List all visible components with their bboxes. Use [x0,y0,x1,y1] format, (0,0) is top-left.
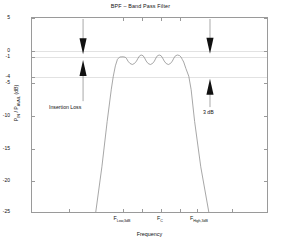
y-axis-label-units: (dB) [13,85,19,96]
three-db-arrow-up [206,79,213,107]
xtick-label-f-high: FHigh,3dB [190,216,208,222]
y-axis-label-sub1: IN [17,114,21,118]
plot-area [31,17,268,213]
ytick-label-0: 0 [7,48,10,53]
filter-response-curve [96,55,209,212]
xtick-label-f-high-sub: High,3dB [193,219,208,223]
plot-graphics [32,18,267,212]
figure-canvas: BPF – Band Pass Filter 5 0 -1 -4 -5 -10 … [0,0,281,245]
xtick-label-f-low: FLow,3dB [113,216,130,222]
annotation-insertion-loss: Insertion Loss [49,105,81,110]
ytick-label--1: -1 [6,54,10,59]
insertion-loss-arrow-down [79,19,86,54]
y-axis-label-text: P [13,118,19,121]
ytick-label--4: -4 [6,74,10,79]
xtick-label-f-low-sub: Low,3dB [117,219,131,223]
ytick-label--5: -5 [6,80,10,85]
insertion-loss-arrow-up [79,60,86,101]
ytick-label-5: 5 [7,15,10,20]
ytick-label--15: -15 [3,146,10,151]
chart-title: BPF – Band Pass Filter [0,3,281,9]
x-axis-label: Frequency [31,231,268,237]
plot-inner [32,18,267,212]
xtick-label-fc: FC [157,216,163,222]
ytick-label--20: -20 [3,178,10,183]
xtick-label-fc-sub: C [160,219,163,223]
y-axis-label-sep: / P [13,106,19,114]
ytick-label--25: -25 [3,209,10,214]
y-axis-label: PIN / PAVAIL (dB) [13,43,19,163]
ytick-label--10: -10 [3,113,10,118]
y-axis-label-sub2: AVAIL [17,96,21,106]
annotation-3db: 3 dB [203,110,214,115]
three-db-arrow-down [206,19,213,54]
